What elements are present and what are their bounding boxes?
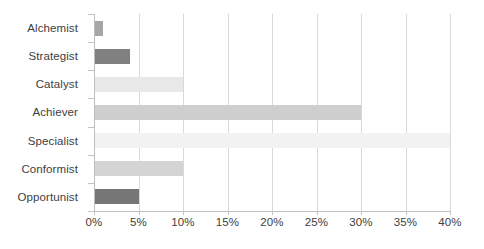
y-axis-line xyxy=(94,14,95,211)
y-axis-tick-label: Catalyst xyxy=(0,70,85,98)
y-axis-tick-label: Specialist xyxy=(0,127,85,155)
x-axis-tick-label: 10% xyxy=(171,216,194,228)
y-tick-mark xyxy=(88,42,94,43)
gridline xyxy=(450,14,451,211)
x-axis-tick-label: 15% xyxy=(216,216,239,228)
bar-row xyxy=(94,161,450,176)
bar xyxy=(94,21,103,36)
x-tick-mark xyxy=(272,211,273,215)
x-tick-mark xyxy=(406,211,407,215)
y-tick-mark xyxy=(88,127,94,128)
x-tick-mark xyxy=(139,211,140,215)
y-axis-tick-label: Opportunist xyxy=(0,183,85,211)
y-axis-tick-label: Alchemist xyxy=(0,14,85,42)
bar xyxy=(94,49,130,64)
x-axis-tick-label: 40% xyxy=(438,216,461,228)
y-tick-mark xyxy=(88,14,94,15)
bar-chart: AlchemistStrategistCatalystAchieverSpeci… xyxy=(0,0,484,249)
x-tick-mark xyxy=(361,211,362,215)
y-axis-tick-label: Strategist xyxy=(0,42,85,70)
x-axis-label-group: 0%5%10%15%20%25%30%35%40% xyxy=(94,216,450,236)
x-tick-mark xyxy=(183,211,184,215)
y-tick-mark xyxy=(88,98,94,99)
plot-area xyxy=(94,14,450,211)
bar-row xyxy=(94,133,450,148)
bar xyxy=(94,189,139,204)
x-axis-tick-label: 25% xyxy=(305,216,328,228)
y-tick-mark xyxy=(88,155,94,156)
y-axis-tick-label: Conformist xyxy=(0,155,85,183)
bar xyxy=(94,105,361,120)
bar-row xyxy=(94,49,450,64)
bars-layer xyxy=(94,14,450,211)
bar xyxy=(94,161,183,176)
x-tick-mark xyxy=(228,211,229,215)
bar-row xyxy=(94,105,450,120)
y-tick-mark xyxy=(88,183,94,184)
x-axis-tick-label: 30% xyxy=(349,216,372,228)
x-tick-mark xyxy=(94,211,95,215)
bar xyxy=(94,77,183,92)
bar-row xyxy=(94,77,450,92)
bar-row xyxy=(94,189,450,204)
x-axis-tick-label: 35% xyxy=(394,216,417,228)
y-axis-label-group: AlchemistStrategistCatalystAchieverSpeci… xyxy=(0,14,85,211)
x-tick-mark xyxy=(450,211,451,215)
x-axis-tick-label: 20% xyxy=(260,216,283,228)
x-axis-tick-label: 0% xyxy=(86,216,103,228)
bar-row xyxy=(94,21,450,36)
x-axis-tick-label: 5% xyxy=(130,216,147,228)
y-axis-tick-label: Achiever xyxy=(0,98,85,126)
y-tick-mark xyxy=(88,70,94,71)
bar xyxy=(94,133,450,148)
x-tick-mark xyxy=(317,211,318,215)
